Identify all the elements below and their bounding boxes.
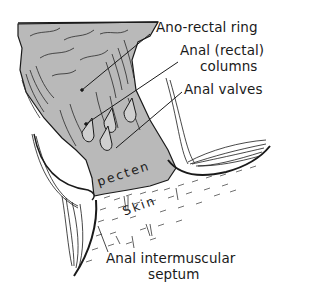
label-septum-line1: Anal intermuscular	[106, 251, 235, 266]
septum-pointer-line	[98, 226, 108, 252]
label-anorectal-ring: Ano-rectal ring	[156, 20, 258, 35]
label-anal-columns-line2: columns	[200, 59, 257, 74]
label-anal-valves: Anal valves	[184, 82, 263, 97]
label-septum-line2: septum	[148, 267, 200, 282]
label-anal-columns-line1: Anal (rectal)	[180, 43, 264, 58]
anal-verge-left	[74, 200, 96, 276]
